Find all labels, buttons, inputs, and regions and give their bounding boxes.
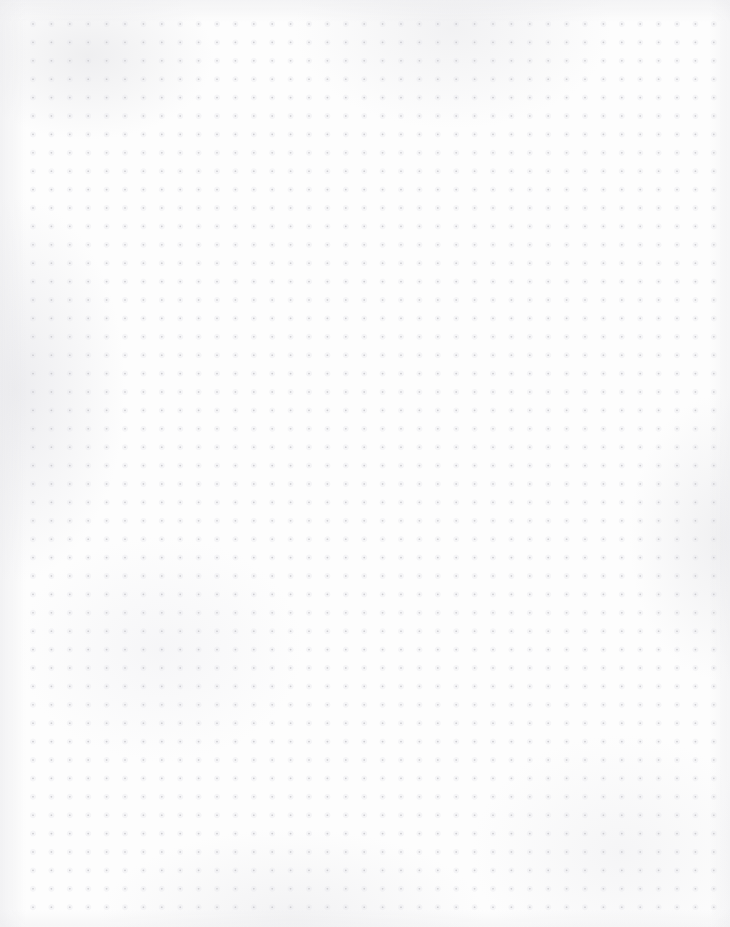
dot-grid-page — [0, 0, 730, 927]
paper-background — [0, 0, 730, 927]
